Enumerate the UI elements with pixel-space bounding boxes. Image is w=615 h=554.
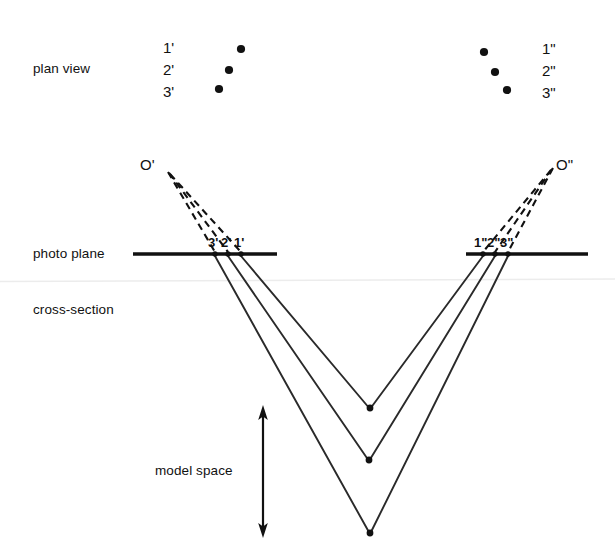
plan-view-dots-left xyxy=(215,45,245,93)
plane-point-left-3 xyxy=(212,251,217,256)
model-space-arrow xyxy=(258,405,268,538)
plan-dot-3-double-prime xyxy=(503,86,511,94)
dashed-ray-left-2 xyxy=(169,173,228,252)
model-ray-left-3 xyxy=(215,256,370,534)
model-point-2 xyxy=(366,457,373,464)
model-point-dots xyxy=(366,405,374,537)
plan-label-2-double-prime: 2" xyxy=(542,63,556,78)
model-ray-left-2 xyxy=(228,256,369,461)
plane-label-left-3-prime: 3' xyxy=(208,236,218,249)
plane-label-right-3-double-prime: 3" xyxy=(500,236,513,249)
plan-label-1-double-prime: 1" xyxy=(542,41,556,56)
dashed-ray-right-3 xyxy=(508,168,553,252)
perspective-center-right-label: O" xyxy=(556,157,573,172)
row-label-plan-view: plan view xyxy=(33,62,90,76)
model-point-3 xyxy=(367,530,374,537)
model-ray-right-2 xyxy=(369,256,495,461)
figure-root: plan view photo plane cross-section mode… xyxy=(0,0,615,554)
model-point-1 xyxy=(367,405,374,412)
plane-label-right-2-double-prime: 2" xyxy=(487,236,500,249)
scan-artifact-line xyxy=(0,279,615,282)
model-ray-right-3 xyxy=(370,256,508,534)
plane-point-right-1 xyxy=(480,251,485,256)
plan-dot-3-prime xyxy=(215,85,223,93)
row-label-model-space: model space xyxy=(155,464,233,478)
plan-view-dots-right xyxy=(480,48,511,94)
plane-label-left-1-prime: 1' xyxy=(234,236,244,249)
plan-label-2-prime: 2' xyxy=(163,62,174,77)
perspective-center-left-label: O' xyxy=(140,157,155,172)
plane-point-right-3 xyxy=(505,251,510,256)
plan-dot-1-prime xyxy=(237,45,245,53)
plane-label-right-1-double-prime: 1" xyxy=(474,236,487,249)
right-model-rays xyxy=(369,256,508,534)
plan-label-3-prime: 3' xyxy=(163,84,174,99)
plan-label-1-prime: 1' xyxy=(163,40,174,55)
plane-point-left-1 xyxy=(238,251,243,256)
plan-dot-2-double-prime xyxy=(491,68,499,76)
left-model-rays xyxy=(215,256,370,534)
plane-label-left-2-prime: 2' xyxy=(221,236,231,249)
diagram-canvas xyxy=(0,0,615,554)
plane-point-left-2 xyxy=(225,251,230,256)
model-ray-left-1 xyxy=(241,256,370,409)
plan-dot-1-double-prime xyxy=(480,48,488,56)
row-label-cross-section: cross-section xyxy=(33,303,114,317)
plane-point-right-2 xyxy=(492,251,497,256)
plan-dot-2-prime xyxy=(225,66,233,74)
plan-label-3-double-prime: 3" xyxy=(542,85,556,100)
row-label-photo-plane: photo plane xyxy=(33,247,105,261)
model-ray-right-1 xyxy=(370,256,483,409)
